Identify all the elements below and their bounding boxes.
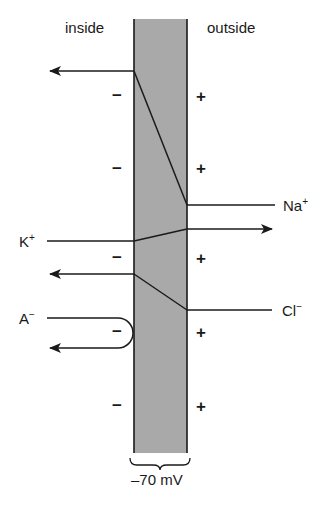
- inside-charge-sign: −: [112, 87, 122, 104]
- outside-charge-sign: +: [196, 88, 206, 105]
- outside-charge-sign: +: [196, 324, 206, 341]
- outside-label: outside: [207, 20, 255, 35]
- inside-charge-sign: −: [112, 160, 122, 177]
- membrane-diagram: [0, 0, 326, 505]
- inside-charge-sign: −: [112, 249, 122, 266]
- cl-ion-label: Cl−: [282, 302, 302, 318]
- outside-charge-sign: +: [196, 398, 206, 415]
- membrane: [134, 19, 187, 453]
- a-ion-label: A−: [19, 310, 35, 326]
- membrane-potential-label: –70 mV: [131, 472, 183, 487]
- inside-charge-sign: −: [112, 323, 122, 340]
- potential-brace: [130, 458, 190, 470]
- na-ion-label: Na+: [283, 197, 308, 213]
- k-ion-label: K+: [19, 233, 35, 249]
- outside-charge-sign: +: [196, 160, 206, 177]
- inside-label: inside: [65, 20, 104, 35]
- outside-charge-sign: +: [196, 250, 206, 267]
- inside-charge-sign: −: [112, 397, 122, 414]
